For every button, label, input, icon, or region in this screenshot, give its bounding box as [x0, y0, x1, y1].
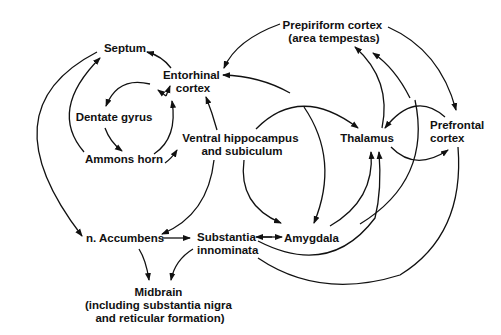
node-prepiriform-cortex: Prepiriform cortex (area tempestas): [283, 19, 386, 44]
edge-septum-accumbens: [37, 52, 97, 236]
node-ammons-horn: Ammons horn: [85, 153, 163, 165]
edge-amygdala-thalamus-a: [330, 152, 371, 226]
node-entorhinal-cortex: Entorhinal cortex: [163, 69, 223, 94]
edge-substantia-prefrontal: [258, 147, 459, 284]
edge-prepiriform-prefrontal: [388, 27, 456, 110]
edge-thalamus-prefrontal: [391, 147, 448, 160]
edge-substantia-midbrain: [171, 249, 193, 280]
edge-dentate-ammons: [105, 128, 122, 151]
edge-hook-a: [158, 90, 166, 96]
edge-prefrontal-prepiriform: [373, 53, 410, 98]
node-amygdala: Amygdala: [284, 232, 340, 244]
edge-hook-b: [166, 86, 170, 96]
edge-ventral-accumbens: [162, 160, 214, 234]
edge-prepiriform-entorhinal: [224, 24, 280, 68]
edge-ammons-septum: [69, 58, 100, 152]
node-n-accumbens: n. Accumbens: [86, 232, 164, 244]
node-dentate-gyrus: Dentate gyrus: [76, 111, 153, 123]
limbic-connectivity-diagram: Septum Entorhinal cortex Dentate gyrus A…: [0, 0, 501, 335]
edge-to-entorhinal-horiz: [223, 75, 290, 93]
edge-ammons-ventral: [165, 150, 177, 163]
edge-prefrontal-amygdala: [360, 100, 418, 224]
node-thalamus: Thalamus: [340, 132, 394, 144]
edge-thalamus-prepiriform: [355, 47, 384, 128]
node-midbrain: Midbrain (including substantia nigra and…: [85, 286, 235, 324]
edge-ventral-amygdala: [243, 160, 281, 223]
edge-ventral-entorhinal: [206, 97, 217, 130]
node-substantia-innominata: Substantia innominata: [197, 231, 259, 256]
edge-accumbens-midbrain: [139, 249, 149, 280]
node-ventral-hippocampus: Ventral hippocampus and subiculum: [182, 132, 302, 157]
edge-entorhinal-amygdala: [304, 107, 325, 223]
edge-ammons-entorhinal: [154, 101, 173, 154]
nodes: Septum Entorhinal cortex Dentate gyrus A…: [76, 19, 488, 324]
edge-ventral-thalamus: [256, 106, 358, 129]
node-prefrontal-cortex: Prefrontal cortex: [430, 119, 488, 144]
node-septum: Septum: [104, 42, 146, 54]
edge-entorhinal-septum: [147, 52, 171, 68]
edge-entorhinal-dentate: [106, 82, 150, 106]
